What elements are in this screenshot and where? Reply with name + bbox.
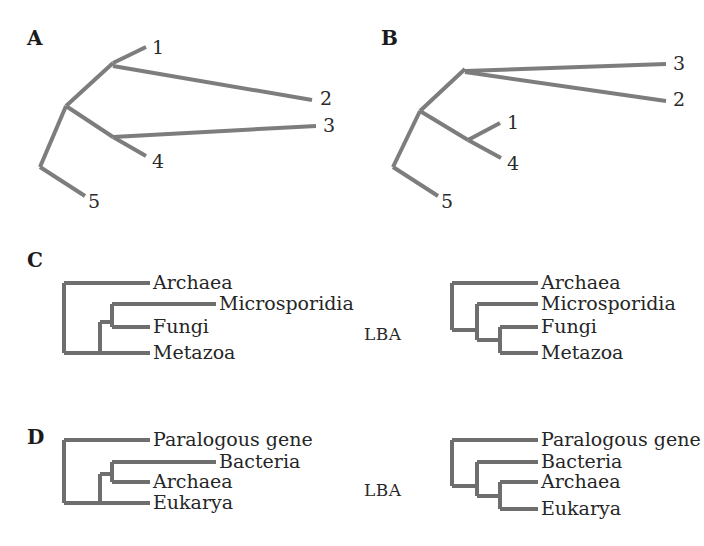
panel-b-branch-root bbox=[393, 111, 420, 167]
panel-d-right-taxon-eukarya: Eukarya bbox=[541, 499, 621, 518]
panel-c-right-taxon-fungi: Fungi bbox=[541, 317, 597, 336]
panel-b-branch-tip4 bbox=[468, 140, 501, 158]
panel-d-right-taxon-archaea: Archaea bbox=[541, 472, 621, 491]
panel-d-left-taxon-eukarya: Eukarya bbox=[153, 493, 233, 512]
panel-b-tip-label-1: 1 bbox=[507, 113, 519, 132]
panel-b-tip-label-2: 2 bbox=[673, 90, 685, 109]
panel-a-branch-internal-upper bbox=[66, 63, 113, 106]
panel-a-branch-root bbox=[40, 106, 66, 167]
panel-b-tip-label-5: 5 bbox=[441, 192, 453, 211]
panel-c-left-taxon-archaea: Archaea bbox=[153, 273, 233, 292]
panel-c-lba-label: LBA bbox=[364, 326, 402, 343]
panel-b-branch-internal-upper bbox=[420, 69, 465, 111]
panel-d-left-taxon-bacteria: Bacteria bbox=[219, 452, 300, 471]
panel-d-lba-label: LBA bbox=[364, 482, 402, 499]
panel-a-tip-label-1: 1 bbox=[152, 38, 164, 57]
panel-d-right-cladogram bbox=[452, 440, 538, 509]
panel-letter-b: B bbox=[381, 28, 398, 48]
panel-letter-c: C bbox=[27, 250, 43, 270]
panel-b-branch-tip3 bbox=[465, 64, 666, 71]
panel-c-right-cladogram bbox=[452, 283, 538, 353]
panel-b-branch-internal-lower bbox=[420, 111, 468, 140]
panel-b-tip-label-4: 4 bbox=[507, 154, 519, 173]
panel-c-right-taxon-metazoa: Metazoa bbox=[541, 343, 623, 362]
panel-c-arrow-shape bbox=[364, 304, 417, 321]
panel-c-right-taxon-archaea: Archaea bbox=[541, 273, 621, 292]
panel-d-left-taxon-archaea: Archaea bbox=[153, 472, 233, 491]
panel-letter-d: D bbox=[27, 427, 44, 447]
panel-c-left-taxon-metazoa: Metazoa bbox=[153, 343, 235, 362]
panel-c-left-taxon-microsporidia: Microsporidia bbox=[219, 294, 354, 313]
panel-b-tree bbox=[393, 64, 666, 196]
panel-a-tree bbox=[40, 47, 316, 196]
panel-c-lba-arrow bbox=[364, 304, 417, 321]
panel-c-right-taxon-microsporidia: Microsporidia bbox=[541, 294, 676, 313]
panel-a-tip-label-3: 3 bbox=[323, 116, 335, 135]
panel-letter-a: A bbox=[27, 28, 43, 48]
panel-c-left-taxon-fungi: Fungi bbox=[153, 317, 209, 336]
panel-a-branch-internal-lower bbox=[66, 106, 113, 137]
panel-a-tip-label-2: 2 bbox=[320, 89, 332, 108]
panel-b-branch-tip1 bbox=[468, 123, 500, 140]
panel-d-arrow-shape bbox=[364, 460, 417, 477]
panel-d-left-taxon-paralogous-gene: Paralogous gene bbox=[153, 430, 313, 449]
panel-d-lba-arrow bbox=[364, 460, 417, 477]
panel-b-tip-label-3: 3 bbox=[673, 54, 685, 73]
panel-a-branch-tip2 bbox=[113, 66, 312, 100]
panel-a-tip-label-5: 5 bbox=[88, 192, 100, 211]
panel-a-tip-label-4: 4 bbox=[152, 152, 164, 171]
panel-a-branch-tip1 bbox=[113, 47, 146, 63]
panel-d-right-taxon-bacteria: Bacteria bbox=[541, 452, 622, 471]
panel-d-right-taxon-paralogous-gene: Paralogous gene bbox=[541, 430, 701, 449]
panel-a-branch-tip5 bbox=[40, 167, 85, 196]
lba-figure: A B C D 1 2 3 4 5 3 2 1 4 5 Archaea Micr… bbox=[0, 0, 704, 546]
panel-b-branch-tip5 bbox=[393, 167, 438, 196]
panel-a-branch-tip3 bbox=[113, 126, 316, 137]
panel-b-branch-tip2 bbox=[465, 72, 666, 101]
panel-a-branch-tip4 bbox=[113, 137, 146, 156]
